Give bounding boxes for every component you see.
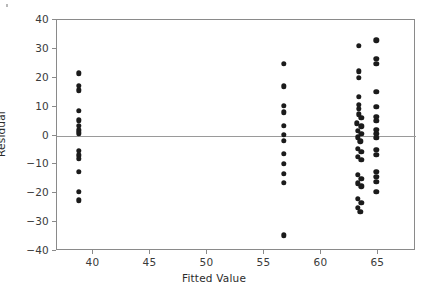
y-tick-mark: [52, 106, 56, 107]
residual-plot-figure: 403020100−10−20−30−40 404550556065 Resid…: [0, 0, 428, 288]
x-tick-mark: [320, 250, 321, 254]
data-point: [76, 71, 81, 76]
y-tick-mark: [52, 48, 56, 49]
data-point: [281, 132, 286, 137]
data-point: [281, 123, 286, 128]
data-point: [76, 88, 81, 93]
y-tick-label: −20: [26, 186, 49, 198]
y-tick-label: 10: [35, 100, 49, 112]
y-axis-title: Residual: [0, 111, 7, 157]
data-point: [357, 139, 362, 144]
y-tick-label: 20: [35, 71, 49, 83]
x-tick-mark: [263, 250, 264, 254]
data-point: [281, 138, 286, 143]
data-point: [373, 89, 378, 94]
y-tick-label: 0: [42, 129, 49, 141]
y-tick-mark: [52, 77, 56, 78]
x-tick-label: 55: [257, 256, 271, 268]
x-tick-label: 60: [314, 256, 328, 268]
data-point: [356, 69, 361, 74]
y-tick-mark: [52, 192, 56, 193]
data-point: [373, 179, 378, 184]
x-tick-label: 45: [143, 256, 157, 268]
x-tick-label: 50: [200, 256, 214, 268]
data-point: [373, 189, 378, 194]
data-point: [76, 189, 81, 194]
x-axis-title: Fitted Value: [0, 272, 428, 284]
data-point: [281, 103, 286, 108]
x-tick-mark: [377, 250, 378, 254]
y-tick-mark: [52, 250, 56, 251]
x-tick-mark: [92, 250, 93, 254]
data-point: [76, 108, 81, 113]
image-artifact-speck: [6, 4, 8, 7]
y-tick-label: 40: [35, 13, 49, 25]
y-tick-label: 30: [35, 42, 49, 54]
data-point: [281, 151, 286, 156]
data-point: [76, 169, 81, 174]
data-point: [281, 109, 286, 114]
data-point: [357, 209, 362, 214]
y-tick-label: −10: [26, 157, 49, 169]
y-tick-mark: [52, 221, 56, 222]
x-tick-mark: [206, 250, 207, 254]
data-point: [76, 156, 81, 161]
data-point: [373, 38, 378, 43]
data-point: [356, 43, 361, 48]
data-point: [281, 84, 286, 89]
x-tick-label: 65: [370, 256, 384, 268]
data-point: [356, 94, 361, 99]
data-point: [281, 180, 286, 185]
data-point: [281, 171, 286, 176]
y-tick-mark: [52, 135, 56, 136]
data-point: [359, 115, 364, 120]
data-point: [359, 149, 364, 154]
x-tick-label: 40: [86, 256, 100, 268]
y-tick-label: −40: [26, 244, 49, 256]
data-point: [281, 61, 286, 66]
data-point: [76, 197, 81, 202]
data-point: [373, 104, 378, 109]
data-point: [356, 75, 361, 80]
data-point: [281, 233, 286, 238]
data-point: [359, 184, 364, 189]
data-point: [373, 118, 378, 123]
y-tick-mark: [52, 19, 56, 20]
y-tick-label: −30: [26, 215, 49, 227]
data-point: [373, 152, 378, 157]
data-point: [373, 61, 378, 66]
data-point: [281, 161, 286, 166]
plot-area: [56, 19, 415, 250]
y-tick-mark: [52, 163, 56, 164]
data-point: [359, 157, 364, 162]
data-point: [373, 135, 378, 140]
x-tick-mark: [149, 250, 150, 254]
